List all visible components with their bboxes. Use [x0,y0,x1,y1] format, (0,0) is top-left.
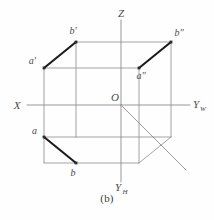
marker-b-dprime [170,41,173,44]
projection-figure: X Z Y W Y H O a' b' a" b" a b (b) [0,0,214,220]
point-label-b-double-prime: b" [174,27,184,38]
axis-label-x: X [13,99,22,111]
axis-oy-diagonal [121,105,186,170]
line-ab-projections-group [44,42,171,163]
marker-a-prime [43,67,46,70]
point-label-a: a [32,125,37,136]
marker-b-prime [75,41,78,44]
marker-b [75,162,78,165]
segment-a-dprime-b-dprime [139,42,171,68]
segment-a-b [44,137,76,163]
segment-a-prime-b-prime [44,42,76,68]
origin-label: O [111,91,119,103]
figure-caption: (b) [0,192,214,204]
marker-a [43,136,46,139]
point-markers-group [43,41,173,165]
projection-diagram-svg: X Z Y W Y H O a' b' a" b" a b [0,0,214,220]
point-label-a-double-prime: a" [136,70,146,81]
point-label-a-prime: a' [29,55,37,66]
marker-a-dprime [138,67,141,70]
axis-label-z: Z [118,7,125,19]
point-label-b: b [71,167,76,178]
axes-group [27,20,190,182]
box-edges-group [44,42,171,163]
axis-label-yw-subscript: W [200,105,207,113]
point-label-b-prime: b' [69,25,77,36]
axis-label-yw-group: Y W [193,98,207,113]
